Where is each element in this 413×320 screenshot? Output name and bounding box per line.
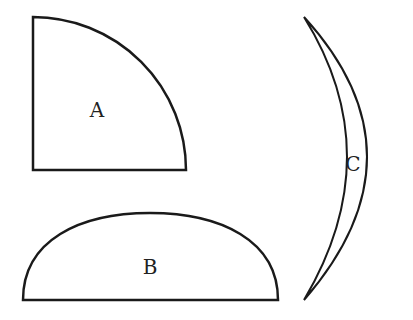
shape-a: A [33,17,186,170]
shape-a-label: A [89,98,105,122]
shapes-diagram: A B C [0,0,413,320]
shape-c: C [304,17,367,300]
shape-b-label: B [143,255,158,279]
shape-c-label: C [345,152,360,176]
shape-b: B [23,213,278,300]
